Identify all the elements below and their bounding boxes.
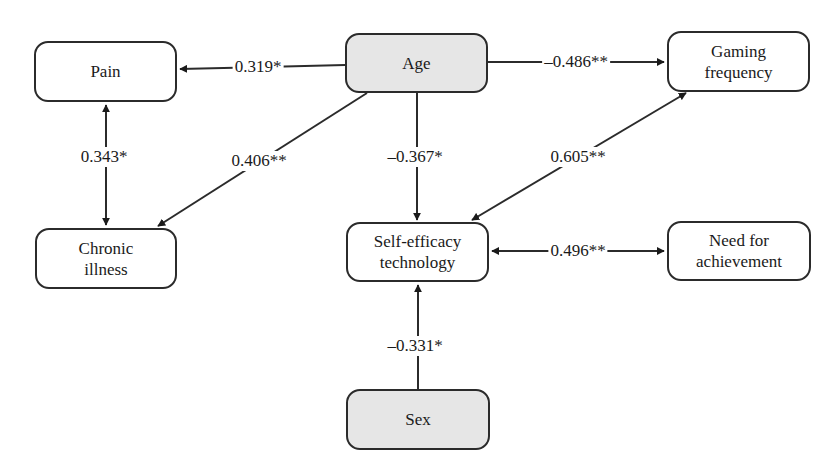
node-need-line2: achievement: [696, 251, 782, 272]
node-sex-label: Sex: [405, 409, 431, 430]
edge-label-age-chronic: 0.406**: [229, 151, 288, 171]
node-chronic-illness: Chronic illness: [35, 228, 177, 289]
edge-label-pain-chronic: 0.343*: [79, 147, 130, 167]
node-chronic-line1: Chronic: [79, 238, 134, 259]
node-pain-label: Pain: [90, 61, 120, 82]
node-gaming-line2: frequency: [705, 62, 773, 83]
node-age-label: Age: [402, 53, 430, 74]
node-selfeff-line2: technology: [380, 252, 456, 273]
node-age: Age: [345, 33, 488, 93]
edge-label-age-pain: 0.319*: [233, 57, 284, 77]
node-chronic-line2: illness: [84, 259, 127, 280]
edge-label-age-selfeff: –0.367*: [385, 147, 444, 167]
node-need-line1: Need for: [709, 230, 769, 251]
node-pain: Pain: [34, 41, 177, 102]
edge-label-selfeff-need: 0.496**: [548, 241, 607, 261]
node-gaming-frequency: Gaming frequency: [667, 31, 810, 92]
node-need-for-achievement: Need for achievement: [667, 221, 811, 281]
edge-label-sex-selfeff: –0.331*: [385, 336, 444, 356]
node-selfeff-line1: Self-efficacy: [374, 231, 461, 252]
edge-label-gaming-selfeff: 0.605**: [548, 147, 607, 167]
node-self-efficacy-technology: Self-efficacy technology: [346, 222, 489, 282]
node-sex: Sex: [346, 389, 490, 450]
edge-label-age-gaming: –0.486**: [542, 52, 610, 72]
node-gaming-line1: Gaming: [711, 41, 766, 62]
